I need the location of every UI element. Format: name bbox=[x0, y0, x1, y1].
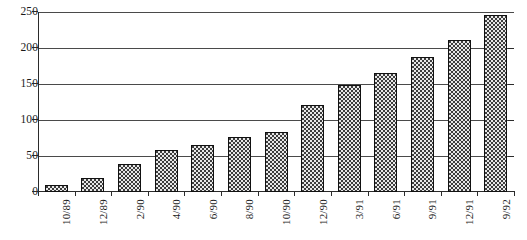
x-tick-label: 10/90 bbox=[281, 199, 292, 225]
x-tick-mark bbox=[294, 191, 295, 196]
x-tick-label: 9/92 bbox=[501, 199, 512, 219]
bar bbox=[81, 178, 104, 192]
bar bbox=[448, 40, 471, 193]
x-tick-mark bbox=[368, 191, 369, 196]
x-tick-mark bbox=[441, 191, 442, 196]
x-tick-label: 12/90 bbox=[318, 199, 329, 225]
x-tick-mark bbox=[221, 191, 222, 196]
x-tick-mark bbox=[331, 191, 332, 196]
x-tick-label: 12/89 bbox=[98, 199, 109, 225]
bar bbox=[411, 57, 434, 192]
x-tick-mark bbox=[38, 191, 39, 196]
x-tick-mark bbox=[148, 191, 149, 196]
bar bbox=[118, 164, 141, 192]
x-tick-label: 9/91 bbox=[427, 199, 438, 219]
x-tick-mark bbox=[75, 191, 76, 196]
x-tick-label: 6/90 bbox=[208, 199, 219, 219]
x-tick-label: 2/90 bbox=[135, 199, 146, 219]
x-tick-label: 3/91 bbox=[354, 199, 365, 219]
bar-chart: 250 200 150 100 50 0 bbox=[0, 0, 527, 240]
bar bbox=[374, 73, 397, 192]
x-tick-label: 8/90 bbox=[244, 199, 255, 219]
bar bbox=[484, 15, 507, 192]
x-tick-mark bbox=[258, 191, 259, 196]
x-tick-mark bbox=[184, 191, 185, 196]
x-tick-mark bbox=[404, 191, 405, 196]
bar bbox=[301, 105, 324, 192]
x-tick-label: 6/91 bbox=[391, 199, 402, 219]
x-tick-mark bbox=[514, 191, 515, 196]
bar bbox=[155, 150, 178, 192]
x-tick-label: 12/91 bbox=[464, 199, 475, 225]
x-tick-mark bbox=[477, 191, 478, 196]
bar bbox=[338, 85, 361, 192]
bar bbox=[191, 145, 214, 192]
bars-layer bbox=[38, 12, 514, 192]
x-tick-mark bbox=[111, 191, 112, 196]
bar bbox=[45, 185, 68, 192]
bar bbox=[228, 137, 251, 192]
x-tick-label: 4/90 bbox=[171, 199, 182, 219]
x-tick-label: 10/89 bbox=[61, 199, 72, 225]
bar bbox=[265, 132, 288, 192]
